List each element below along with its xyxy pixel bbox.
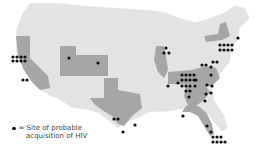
state-colorado <box>80 55 108 76</box>
legend-line-2: acquisition of HIV <box>12 132 87 140</box>
legend-line-1: = Site of probable <box>19 124 83 132</box>
map-legend: = Site of probable acquisition of HIV <box>12 124 87 140</box>
sites-southern-california <box>21 78 28 81</box>
sites-massachusetts <box>236 36 239 39</box>
site-dot-icon <box>12 127 16 131</box>
sites-utah <box>67 56 70 59</box>
sites-colorado <box>96 61 99 64</box>
